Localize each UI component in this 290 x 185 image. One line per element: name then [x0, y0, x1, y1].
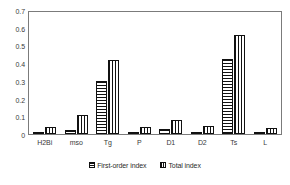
bar-group	[92, 12, 124, 134]
bar-Tg-total	[108, 60, 119, 134]
bar-Ts-total	[234, 35, 245, 134]
bars-layer	[29, 12, 281, 134]
y-axis-tick-label: 0.6	[16, 25, 25, 32]
y-axis-tick-label: 0.1	[16, 114, 25, 121]
x-axis-tick-label: D2	[187, 139, 219, 151]
y-axis-tick-label: 0	[21, 132, 25, 139]
y-axis-tick-label: 0.7	[16, 8, 25, 15]
bar-D2-total	[203, 126, 214, 134]
x-axis-tick-label: Ts	[218, 139, 250, 151]
x-axis: H2BimsoTgPD1D2TsL	[29, 139, 281, 151]
chart-legend: First-order indexTotal index	[0, 159, 290, 171]
x-axis-tick-label: Tg	[92, 139, 124, 151]
bar-group	[124, 12, 156, 134]
sensitivity-index-bar-chart: 0.70.60.50.40.30.20.10 H2BimsoTgPD1D2TsL…	[0, 0, 290, 185]
bar-D2-first-order	[191, 132, 202, 134]
bar-Ts-first-order	[222, 59, 233, 134]
x-axis-tick-label: L	[250, 139, 282, 151]
bar-group	[61, 12, 93, 134]
bar-D1-first-order	[159, 129, 170, 134]
y-axis-tick-label: 0.3	[16, 78, 25, 85]
bar-P-first-order	[128, 132, 139, 134]
legend-swatch-icon	[89, 162, 95, 168]
y-axis-tick-label: 0.4	[16, 61, 25, 68]
bar-H2Bi-first-order	[33, 132, 44, 134]
x-axis-tick-label: D1	[155, 139, 187, 151]
x-axis-tick-label: H2Bi	[29, 139, 61, 151]
legend-item-label: First-order index	[97, 162, 146, 169]
bar-mso-total	[77, 115, 88, 134]
legend-swatch-icon	[160, 162, 166, 168]
y-axis: 0.70.60.50.40.30.20.10	[0, 11, 28, 135]
legend-item: Total index	[160, 162, 200, 169]
bar-D1-total	[171, 120, 182, 134]
bar-group	[29, 12, 61, 134]
caption-sliver	[4, 178, 288, 185]
y-axis-tick-label: 0.2	[16, 96, 25, 103]
bar-mso-first-order	[65, 130, 76, 134]
bar-group	[218, 12, 250, 134]
y-axis-tick-label: 0.5	[16, 43, 25, 50]
bar-Tg-first-order	[96, 81, 107, 134]
bar-H2Bi-total	[45, 127, 56, 134]
bar-P-total	[140, 127, 151, 134]
legend-item-label: Total index	[168, 162, 200, 169]
bar-group	[250, 12, 282, 134]
x-axis-tick-label: mso	[61, 139, 93, 151]
legend-item: First-order index	[89, 162, 146, 169]
bar-L-first-order	[254, 132, 265, 134]
bar-L-total	[266, 128, 277, 134]
bar-group	[187, 12, 219, 134]
bar-group	[155, 12, 187, 134]
x-axis-tick-label: P	[124, 139, 156, 151]
